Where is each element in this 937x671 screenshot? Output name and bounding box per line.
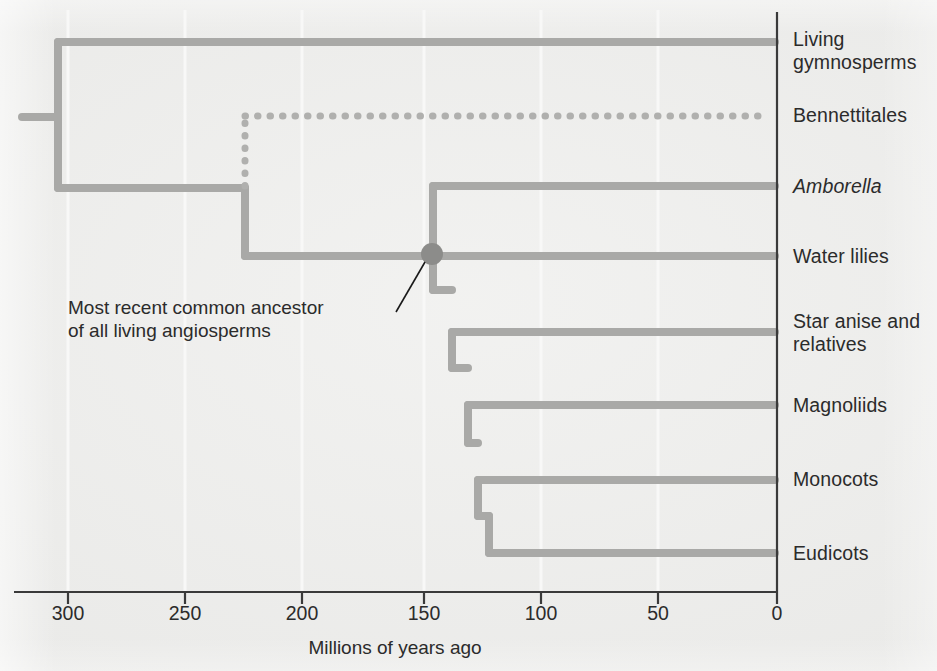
branch-bennettitales-extinct [245, 116, 770, 186]
tick-label-200: 200 [272, 602, 332, 625]
x-axis-title: Millions of years ago [0, 637, 790, 659]
tick-label-150: 150 [394, 602, 454, 625]
mrca-annotation-text: Most recent common ancestor of all livin… [68, 296, 408, 342]
tip-label-star-anise-and-relatives: Star anise and relatives [793, 310, 920, 355]
tip-label-monocots: Monocots [793, 468, 878, 491]
tip-label-bennettitales: Bennettitales [793, 104, 907, 127]
tip-label-eudicots: Eudicots [793, 542, 869, 565]
tip-label-amborella: Amborella [793, 175, 882, 198]
tick-label-250: 250 [155, 602, 215, 625]
tick-label-300: 300 [38, 602, 98, 625]
tip-label-water-lilies: Water lilies [793, 245, 889, 268]
tick-label-50: 50 [628, 602, 688, 625]
tip-label-magnoliids: Magnoliids [793, 394, 887, 417]
phylogenetic-tree-figure: Living gymnosperms Bennettitales Amborel… [0, 0, 937, 671]
tick-label-0: 0 [747, 602, 807, 625]
tip-label-living-gymnosperms: Living gymnosperms [793, 28, 917, 73]
tick-label-100: 100 [511, 602, 571, 625]
